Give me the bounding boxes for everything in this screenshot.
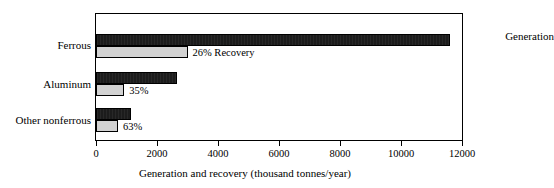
category-label-aluminum: Aluminum	[43, 79, 91, 90]
annotation-ferrous-recovery: 26% Recovery	[193, 48, 255, 59]
x-tick-mark-8000	[340, 141, 341, 146]
x-tick-mark-10000	[401, 141, 402, 146]
x-tick-mark-6000	[279, 141, 280, 146]
x-tick-label-0: 0	[93, 148, 98, 159]
annotation-aluminum-recovery: 35%	[129, 86, 148, 97]
x-tick-mark-0	[96, 141, 97, 146]
category-label-other-nonferrous: Other nonferrous	[16, 115, 91, 126]
x-tick-label-12000: 12000	[449, 148, 475, 159]
x-tick-label-6000: 6000	[269, 148, 290, 159]
annotation-other-nonferrous-recovery: 63%	[123, 122, 142, 133]
bar-recovery-aluminum	[96, 84, 124, 96]
bar-generation-other-nonferrous	[96, 108, 131, 120]
plot-area: Generation	[95, 13, 463, 141]
generation-series-label: Generation	[466, 31, 554, 42]
x-tick-mark-12000	[462, 141, 463, 146]
x-tick-mark-4000	[218, 141, 219, 146]
x-tick-mark-2000	[157, 141, 158, 146]
x-tick-label-2000: 2000	[147, 148, 168, 159]
x-tick-label-10000: 10000	[388, 148, 414, 159]
bar-recovery-ferrous	[96, 46, 188, 58]
bar-recovery-other-nonferrous	[96, 120, 118, 132]
x-tick-label-8000: 8000	[330, 148, 351, 159]
x-axis-title: Generation and recovery (thousand tonnes…	[0, 167, 490, 179]
category-label-ferrous: Ferrous	[57, 40, 91, 51]
bar-generation-ferrous	[96, 34, 450, 46]
x-tick-label-4000: 4000	[208, 148, 229, 159]
bar-generation-aluminum	[96, 72, 177, 84]
